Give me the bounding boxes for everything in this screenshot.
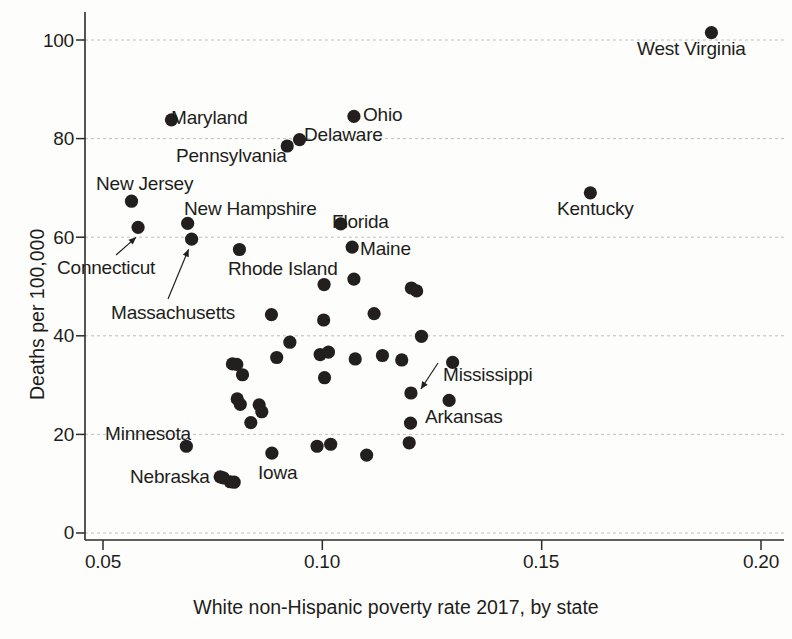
xtick-label-005: 0.05	[72, 551, 134, 573]
data-point[interactable]	[131, 221, 144, 234]
scatter-plot-figure: 100 80 60 40 20 0 0.05 0.10 0.15 0.20 Wh…	[0, 0, 792, 639]
data-point[interactable]	[317, 313, 330, 326]
data-point[interactable]	[244, 416, 257, 429]
data-point[interactable]	[415, 330, 428, 343]
point-label-arkansas: Arkansas	[425, 406, 503, 428]
data-point[interactable]	[234, 398, 247, 411]
point-label-mississippi: Mississippi	[443, 364, 533, 386]
point-label-maryland: Maryland	[171, 107, 248, 129]
ytick-label-100: 100	[18, 30, 74, 52]
data-point[interactable]	[395, 353, 408, 366]
data-point[interactable]	[310, 440, 323, 453]
point-label-ohio: Ohio	[363, 104, 402, 126]
ytick-label-80: 80	[18, 128, 74, 150]
leader-mississippi-head	[421, 381, 428, 389]
point-label-delaware: Delaware	[304, 124, 383, 146]
point-label-iowa: Iowa	[258, 462, 297, 484]
leader-connecticut	[116, 237, 136, 255]
ytick-label-20: 20	[18, 424, 74, 446]
data-point[interactable]	[404, 386, 417, 399]
data-point[interactable]	[265, 308, 278, 321]
data-point[interactable]	[228, 476, 241, 489]
data-point[interactable]	[347, 273, 360, 286]
leader-massachusetts-line	[168, 249, 189, 299]
data-point[interactable]	[368, 307, 381, 320]
data-point[interactable]	[233, 243, 246, 256]
point-label-pennsylvania: Pennsylvania	[176, 145, 287, 167]
data-point[interactable]	[283, 336, 296, 349]
data-point[interactable]	[349, 352, 362, 365]
data-point[interactable]	[270, 351, 283, 364]
data-point[interactable]	[360, 449, 373, 462]
ytick-label-0: 0	[18, 522, 74, 544]
data-point[interactable]	[125, 195, 138, 208]
xtick-label-010: 0.10	[291, 551, 353, 573]
data-point[interactable]	[347, 110, 360, 123]
point-label-kentucky: Kentucky	[557, 198, 634, 220]
point-label-new-hampshire: New Hampshire	[184, 198, 317, 220]
data-point[interactable]	[185, 233, 198, 246]
point-label-connecticut: Connecticut	[57, 257, 155, 279]
data-point[interactable]	[324, 438, 337, 451]
data-point[interactable]	[322, 345, 335, 358]
data-point[interactable]	[376, 349, 389, 362]
x-axis-title: White non-Hispanic poverty rate 2017, by…	[0, 596, 792, 619]
point-label-west-virginia: West Virginia	[637, 38, 746, 60]
point-label-rhode-island: Rhode Island	[228, 258, 338, 280]
data-point[interactable]	[443, 394, 456, 407]
point-label-florida: Florida	[332, 211, 389, 233]
point-label-minnesota: Minnesota	[105, 423, 191, 445]
xtick-label-020: 0.20	[730, 551, 792, 573]
data-point[interactable]	[236, 368, 249, 381]
data-point[interactable]	[318, 371, 331, 384]
point-label-nebraska: Nebraska	[130, 466, 210, 488]
data-point[interactable]	[403, 436, 416, 449]
data-point[interactable]	[265, 447, 278, 460]
leader-mississippi	[421, 363, 438, 389]
xtick-label-015: 0.15	[510, 551, 572, 573]
point-label-massachusetts: Massachusetts	[111, 302, 235, 324]
point-label-new-jersey: New Jersey	[96, 173, 193, 195]
y-axis-title: Deaths per 100,000	[26, 229, 49, 400]
point-label-maine: Maine	[360, 238, 411, 260]
data-point[interactable]	[410, 284, 423, 297]
leader-massachusetts	[168, 249, 189, 299]
data-point[interactable]	[255, 405, 268, 418]
data-point[interactable]	[404, 416, 417, 429]
data-point[interactable]	[346, 240, 359, 253]
